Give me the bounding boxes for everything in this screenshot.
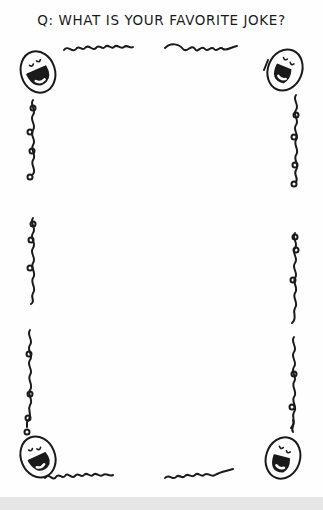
right-vine-3 — [291, 337, 295, 428]
left-vine-2 — [31, 218, 34, 304]
left-vine-3 — [28, 330, 31, 421]
bottom-vine-right — [165, 469, 233, 478]
worksheet-page: Q: WHAT IS YOUR FAVORITE JOKE? — [0, 0, 323, 497]
answer-area — [50, 95, 275, 445]
bottom-vine-left — [45, 474, 113, 479]
laughing-face-icon-top-right — [261, 44, 308, 96]
laughing-face-icon-top-left — [15, 47, 60, 97]
top-vine-right — [165, 44, 237, 50]
bottom-gray-band — [0, 497, 323, 510]
top-vine-left — [64, 46, 133, 51]
